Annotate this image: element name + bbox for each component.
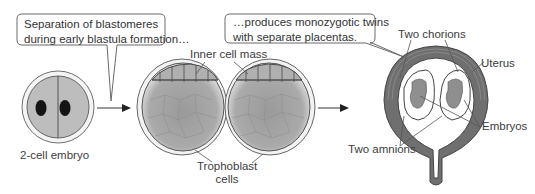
callout-left: Separation of blastomeres during early b…	[24, 17, 190, 47]
label-two-amnions: Two amnions	[348, 143, 416, 156]
label-trophoblast-cells: Trophoblast cells	[197, 160, 257, 186]
blastula-left	[137, 59, 227, 155]
callout-left-line1: Separation of blastomeres	[24, 17, 190, 32]
label-trophoblast-line2: cells	[197, 173, 257, 186]
callout-right: …produces monozygotic twins with separat…	[233, 15, 389, 45]
label-inner-cell-mass: Inner cell mass	[190, 48, 267, 61]
label-embryos: Embryos	[482, 120, 527, 133]
uterus	[384, 46, 488, 185]
nucleus-left	[36, 100, 47, 116]
arrow-1	[97, 104, 131, 112]
label-2-cell-embryo: 2-cell embryo	[20, 149, 89, 162]
callout-right-line1: …produces monozygotic twins	[233, 15, 389, 30]
arrow-2	[318, 104, 349, 112]
callout-left-line2: during early blastula formation…	[24, 32, 190, 47]
label-two-chorions: Two chorions	[398, 28, 466, 41]
callout-right-line2: with separate placentas.	[233, 30, 389, 45]
two-cell-embryo	[22, 71, 94, 143]
label-uterus: Uterus	[481, 57, 515, 70]
nucleus-right	[60, 100, 71, 116]
label-trophoblast-line1: Trophoblast	[197, 160, 257, 173]
blastula-right	[225, 59, 315, 155]
